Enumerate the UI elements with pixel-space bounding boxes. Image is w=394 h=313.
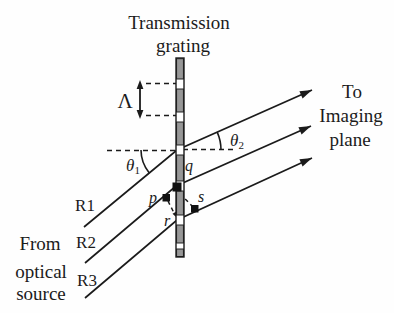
source-caption-line3: source — [16, 284, 66, 303]
source-caption-line1: From — [19, 234, 60, 253]
ray-r3-arrowhead-icon — [299, 158, 312, 167]
ray-r1-label: R1 — [75, 197, 95, 214]
grating-bar — [176, 58, 184, 257]
theta2-label: θ2 — [230, 132, 244, 151]
point-p-label: p — [149, 190, 157, 206]
point-s-label: s — [198, 189, 204, 205]
period-arrow-down-icon — [137, 110, 144, 119]
ray-r2-arrowhead-icon — [298, 126, 311, 135]
theta2-subscript: 2 — [238, 139, 244, 151]
period-arrow — [137, 80, 144, 119]
period-arrow-up-icon — [137, 80, 144, 89]
figure-title-line1: Transmission — [128, 13, 230, 32]
point-s-marker — [191, 205, 199, 213]
ray-r2-label: R2 — [76, 234, 96, 251]
point-q-marker — [173, 183, 182, 192]
theta2-arc — [217, 132, 221, 150]
theta1-arc — [141, 150, 149, 173]
grating-period-label: Λ — [117, 91, 132, 112]
theta1-subscript: 1 — [134, 164, 140, 176]
destination-caption-line3: plane — [329, 130, 370, 149]
transmission-grating-diagram: Transmission grating Λ θ1 θ2 q p s r R1 … — [0, 0, 394, 313]
ray-r3-line — [85, 158, 312, 298]
destination-caption-line1: To — [342, 82, 362, 101]
point-p-marker — [163, 194, 171, 202]
ray-r1-arrowhead-icon — [299, 90, 312, 99]
point-q-label: q — [185, 158, 193, 174]
point-r-label: r — [164, 213, 170, 229]
destination-caption-line2: Imaging — [319, 106, 382, 125]
figure-title-line2: grating — [156, 36, 210, 55]
source-caption-line2: optical — [15, 262, 67, 281]
theta1-label: θ1 — [126, 157, 140, 176]
ray-r3-label: R3 — [77, 272, 97, 289]
